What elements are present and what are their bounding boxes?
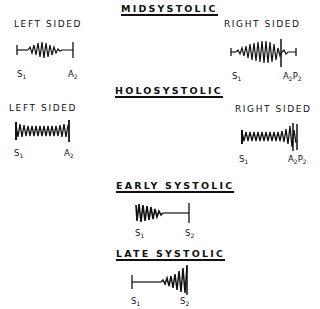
- holosystolic-left-s1: S1: [14, 148, 23, 161]
- holosystolic-right-a2p2: A2P2: [288, 154, 307, 167]
- midsystolic-right-s1: S1: [232, 71, 241, 84]
- midsystolic-right-a2p2: A2P2: [283, 71, 302, 84]
- holosystolic-right-s1: S1: [239, 154, 248, 167]
- late-systolic-title: LATE SYSTOLIC: [116, 248, 225, 261]
- early-systolic-waveform: [134, 201, 194, 225]
- midsystolic-left-label: LEFT SIDED: [14, 19, 82, 29]
- late-systolic-s1: S1: [131, 296, 140, 309]
- holosystolic-left-label: LEFT SIDED: [9, 103, 77, 113]
- midsystolic-title: MIDSYSTOLIC: [121, 3, 218, 16]
- early-systolic-title: EARLY SYSTOLIC: [116, 180, 234, 193]
- holosystolic-title: HOLOSYSTOLIC: [115, 85, 223, 98]
- midsystolic-left-waveform: [16, 40, 74, 60]
- early-systolic-s1: S1: [135, 228, 144, 241]
- early-systolic-s2: S2: [185, 228, 194, 241]
- late-systolic-s2: S2: [180, 296, 189, 309]
- midsystolic-left-a2: A2: [68, 69, 78, 82]
- holosystolic-right-waveform: [240, 122, 306, 152]
- midsystolic-left-s1: S1: [17, 69, 26, 82]
- holosystolic-left-waveform: [14, 119, 72, 143]
- holosystolic-right-label: RIGHT SIDED: [235, 104, 312, 114]
- holosystolic-left-a2: A2: [64, 148, 74, 161]
- late-systolic-waveform: [131, 264, 193, 296]
- midsystolic-right-label: RIGHT SIDED: [224, 19, 301, 29]
- midsystolic-right-waveform: [230, 38, 300, 68]
